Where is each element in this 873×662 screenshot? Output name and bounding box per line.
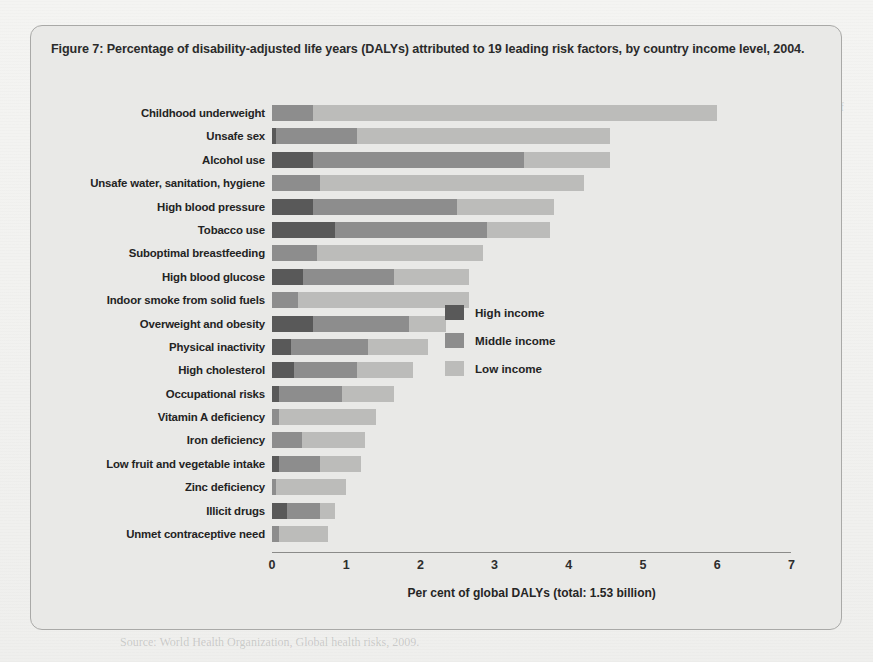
legend-label: Low income	[475, 362, 542, 375]
bar-segment-mid	[272, 292, 298, 308]
figure-title: Figure 7: Percentage of disability-adjus…	[51, 40, 819, 59]
bar-segment-high	[272, 386, 279, 402]
bar-segment-low	[317, 245, 484, 261]
bar-segment-low	[320, 175, 583, 191]
bar-segment-low	[394, 269, 468, 285]
bar-segment-mid	[303, 269, 394, 285]
bar-segment-low	[279, 526, 327, 542]
bar-segment-low	[487, 222, 550, 238]
bar-row-label: Occupational risks	[45, 386, 265, 403]
bar-row: Suboptimal breastfeeding	[45, 244, 829, 267]
x-axis-ticks: 01234567	[45, 558, 829, 580]
bar-row-label: Overweight and obesity	[45, 316, 265, 333]
bar-rows: Childhood underweightUnsafe sexAlcohol u…	[45, 104, 829, 548]
bar-row-label: Tobacco use	[45, 222, 265, 239]
bar-segment-mid	[313, 199, 458, 215]
figure-panel: Figure 7: Percentage of disability-adjus…	[30, 25, 842, 630]
x-tick-label: 3	[491, 558, 498, 572]
bar-segment-mid	[272, 105, 313, 121]
stacked-bar	[272, 245, 483, 261]
bar-row-label: Alcohol use	[45, 152, 265, 169]
stacked-bar	[272, 386, 394, 402]
bar-segment-mid	[272, 175, 320, 191]
bar-segment-high	[272, 339, 291, 355]
bar-segment-mid	[272, 432, 302, 448]
bar-segment-mid	[313, 152, 524, 168]
bar-row-label: Physical inactivity	[45, 339, 265, 356]
legend-item: High income	[445, 301, 556, 324]
bar-row-label: Unmet contraceptive need	[45, 526, 265, 543]
bar-segment-mid	[291, 339, 369, 355]
bar-row: Unmet contraceptive need	[45, 525, 829, 548]
legend-label: High income	[475, 306, 545, 319]
bar-row-label: Unsafe water, sanitation, hygiene	[45, 175, 265, 192]
bar-segment-mid	[272, 245, 317, 261]
bar-row-label: Low fruit and vegetable intake	[45, 456, 265, 473]
bar-segment-low	[457, 199, 553, 215]
bar-segment-mid	[272, 526, 279, 542]
bar-segment-high	[272, 222, 335, 238]
bar-segment-low	[357, 128, 609, 144]
bar-segment-low	[320, 503, 335, 519]
bar-row-label: Iron deficiency	[45, 432, 265, 449]
bar-segment-low	[409, 316, 446, 332]
stacked-bar	[272, 409, 376, 425]
chart-legend: High incomeMiddle incomeLow income	[445, 301, 556, 385]
bar-row: Alcohol use	[45, 151, 829, 174]
bar-segment-high	[272, 362, 294, 378]
bar-row-label: Vitamin A deficiency	[45, 409, 265, 426]
bar-segment-mid	[272, 409, 279, 425]
bar-row-label: Indoor smoke from solid fuels	[45, 292, 265, 309]
stacked-bar	[272, 432, 365, 448]
bar-row-label: Illicit drugs	[45, 503, 265, 520]
bar-segment-low	[368, 339, 427, 355]
stacked-bar	[272, 362, 413, 378]
bar-row: Overweight and obesity	[45, 315, 829, 338]
legend-swatch-high	[445, 305, 464, 320]
chart-plot-area: Childhood underweightUnsafe sexAlcohol u…	[45, 98, 829, 618]
x-axis-label: Per cent of global DALYs (total: 1.53 bi…	[272, 586, 791, 600]
bar-row-label: Suboptimal breastfeeding	[45, 245, 265, 262]
bar-segment-mid	[335, 222, 487, 238]
bar-segment-high	[272, 199, 313, 215]
stacked-bar	[272, 152, 610, 168]
bar-segment-low	[357, 362, 413, 378]
bar-segment-low	[320, 456, 361, 472]
stacked-bar	[272, 199, 554, 215]
x-tick-label: 4	[565, 558, 572, 572]
stacked-bar	[272, 526, 328, 542]
bar-row: Physical inactivity	[45, 338, 829, 361]
stacked-bar	[272, 316, 446, 332]
background-source-note: Source: World Health Organization, Globa…	[120, 635, 550, 650]
bar-row-label: High blood pressure	[45, 199, 265, 216]
bar-segment-mid	[279, 456, 320, 472]
bar-row-label: Childhood underweight	[45, 105, 265, 122]
bar-segment-low	[279, 409, 375, 425]
bar-segment-low	[342, 386, 394, 402]
bar-segment-low	[313, 105, 717, 121]
bar-row: Unsafe sex	[45, 127, 829, 150]
bar-segment-high	[272, 152, 313, 168]
stacked-bar	[272, 479, 346, 495]
bar-row: Low fruit and vegetable intake	[45, 455, 829, 478]
stacked-bar	[272, 105, 717, 121]
x-tick-label: 6	[714, 558, 721, 572]
bar-row: Iron deficiency	[45, 431, 829, 454]
stacked-bar	[272, 175, 584, 191]
stacked-bar	[272, 292, 469, 308]
bar-segment-low	[302, 432, 365, 448]
bar-row-label: High blood glucose	[45, 269, 265, 286]
bar-segment-low	[524, 152, 609, 168]
bar-segment-mid	[313, 316, 409, 332]
x-tick-label: 5	[640, 558, 647, 572]
bar-row: Illicit drugs	[45, 502, 829, 525]
bar-row: Childhood underweight	[45, 104, 829, 127]
bar-segment-mid	[294, 362, 357, 378]
legend-item: Low income	[445, 357, 556, 380]
legend-label: Middle income	[475, 334, 556, 347]
x-tick-label: 1	[343, 558, 350, 572]
bar-row: Zinc deficiency	[45, 478, 829, 501]
legend-swatch-mid	[445, 333, 464, 348]
bar-row: Indoor smoke from solid fuels	[45, 291, 829, 314]
bar-segment-high	[272, 503, 287, 519]
